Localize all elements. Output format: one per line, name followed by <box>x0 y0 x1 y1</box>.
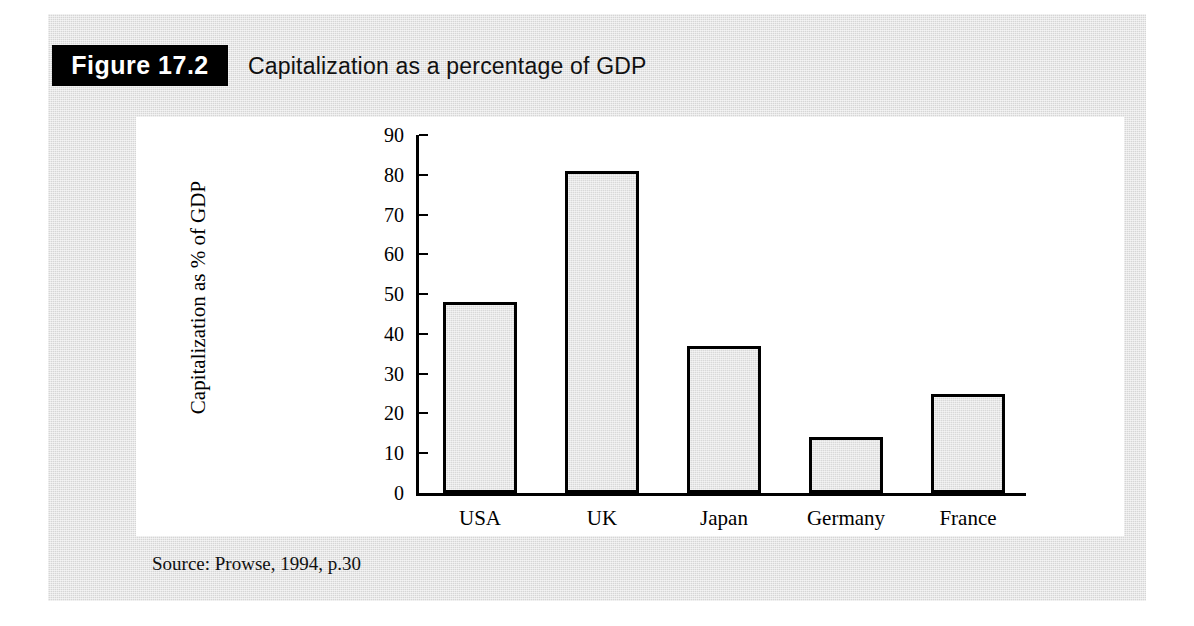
x-axis-label-uk: UK <box>587 506 617 531</box>
bar-france <box>931 394 1004 493</box>
x-axis-label-france: France <box>939 506 996 531</box>
y-axis-tick-mark <box>419 293 428 295</box>
figure-root: Figure 17.2 Capitalization as a percenta… <box>0 0 1194 626</box>
y-axis-tick-label: 90 <box>384 124 404 147</box>
figure-number-badge: Figure 17.2 <box>52 45 228 86</box>
y-axis-tick-label: 0 <box>394 482 404 505</box>
bar-usa <box>443 302 516 493</box>
y-axis-tick-mark <box>419 452 428 454</box>
y-axis-tick-mark <box>419 174 428 176</box>
chart-card: Capitalization as % of GDP 0102030405060… <box>136 117 1124 536</box>
x-axis-label-japan: Japan <box>700 506 748 531</box>
y-axis-tick-label: 20 <box>384 402 404 425</box>
figure-caption: Capitalization as a percentage of GDP <box>248 48 647 84</box>
y-axis-tick-label: 70 <box>384 203 404 226</box>
y-axis-tick-mark <box>419 134 428 136</box>
x-axis-label-germany: Germany <box>807 506 885 531</box>
bar-uk <box>565 171 638 493</box>
y-axis-title: Capitalization as % of GDP <box>186 148 211 448</box>
y-axis-tick-mark <box>419 253 428 255</box>
y-axis-tick-label: 30 <box>384 362 404 385</box>
bar-chart: Capitalization as % of GDP 0102030405060… <box>136 117 1124 536</box>
y-axis-tick-mark <box>419 373 428 375</box>
x-axis-label-usa: USA <box>459 506 501 531</box>
y-axis-tick-mark <box>419 214 428 216</box>
y-axis-tick-mark <box>419 333 428 335</box>
source-note: Source: Prowse, 1994, p.30 <box>152 553 361 575</box>
y-axis-tick-label: 60 <box>384 243 404 266</box>
bar-germany <box>809 437 882 493</box>
bar-japan <box>687 346 760 493</box>
y-axis-tick-label: 50 <box>384 283 404 306</box>
x-axis-line <box>416 493 1026 496</box>
y-axis-tick-mark <box>419 412 428 414</box>
plot-area: 0102030405060708090USAUKJapanGermanyFran… <box>416 135 1026 496</box>
y-axis-line <box>416 135 419 496</box>
y-axis-tick-label: 80 <box>384 163 404 186</box>
y-axis-tick-label: 10 <box>384 442 404 465</box>
y-axis-tick-label: 40 <box>384 322 404 345</box>
